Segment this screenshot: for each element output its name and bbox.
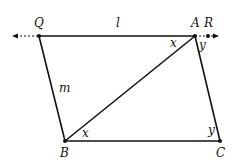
angle-ABC-label: x: [82, 126, 89, 140]
point-C-dot: [218, 139, 222, 143]
point-B-dot: [63, 139, 67, 143]
point-B-label: B: [59, 146, 69, 160]
point-C-label: C: [216, 146, 225, 160]
geometry-figure: Q A R B C l m x y x y: [0, 0, 239, 162]
point-Q-label: Q: [34, 16, 44, 30]
left-arrow-icon: [12, 34, 18, 39]
point-R-dot: [206, 34, 210, 38]
line-l-label: l: [116, 16, 120, 30]
angle-QAB-label: x: [170, 36, 177, 50]
line-m-label: m: [59, 81, 70, 95]
right-arrow-icon: [213, 34, 219, 39]
angle-BCA-label: y: [207, 123, 215, 137]
point-A-label: A: [190, 16, 200, 30]
point-Q-dot: [37, 34, 41, 38]
point-R-label: R: [203, 16, 213, 30]
point-A-dot: [193, 34, 197, 38]
angle-RAC-label: y: [198, 38, 206, 52]
